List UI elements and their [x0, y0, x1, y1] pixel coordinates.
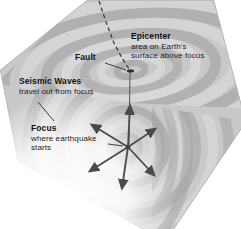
focus-label: Focus where earthquake starts — [31, 124, 97, 152]
seismic-waves-desc-line1: travel out from focus — [19, 87, 94, 96]
faded-corner — [0, 90, 190, 229]
rock-block-graphic — [0, 0, 241, 229]
focus-term: Focus — [31, 124, 97, 134]
seismic-waves-label: Seismic Waves travel out from focus — [19, 77, 94, 96]
epicenter-desc-line2: surface above focus — [131, 51, 205, 60]
focus-desc-line1: where earthquake — [31, 134, 97, 143]
seismic-waves-term: Seismic Waves — [19, 77, 94, 87]
epicenter-term: Epicenter — [131, 32, 205, 42]
epicenter-marker — [127, 69, 134, 72]
fault-term: Fault — [75, 53, 96, 63]
epicenter-desc-line1: area on Earth's — [131, 42, 205, 51]
fault-label: Fault — [75, 53, 96, 63]
earthquake-block-diagram: Epicenter area on Earth's surface above … — [0, 0, 241, 229]
focus-desc-line2: starts — [31, 143, 97, 152]
epicenter-label: Epicenter area on Earth's surface above … — [131, 32, 205, 60]
focus-marker — [126, 145, 131, 150]
